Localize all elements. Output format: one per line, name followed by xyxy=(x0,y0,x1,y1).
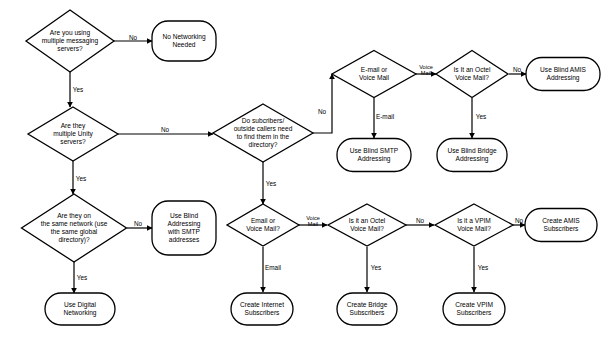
edge-label: No xyxy=(161,126,170,133)
flowchart-canvas: NoYesNoYesNoYesNoYesVoiceMailE-mailNoYes… xyxy=(0,0,614,337)
edge-label: No xyxy=(416,217,425,224)
edge-label: Yes xyxy=(478,264,488,271)
node-t_blind_smtp_addresses[interactable]: Use BlindAddressingwith SMTPaddresses xyxy=(152,201,216,255)
node-q_same_network[interactable]: Are they onthe same network (usethe same… xyxy=(22,194,127,262)
node-q_octel_bottom[interactable]: Is it an OctelVoice Mail? xyxy=(328,204,406,246)
edge-label: Yes xyxy=(371,264,381,271)
node-q_multi_unity[interactable]: Are theymultiple Unityservers? xyxy=(28,107,118,161)
edge-label: No xyxy=(513,66,522,73)
node-label: Create BridgeSubscribers xyxy=(347,301,388,316)
node-q_email_or_vm_top[interactable]: E-mail orVoice Mail xyxy=(332,51,416,98)
edge-label: No xyxy=(515,217,524,224)
node-label: Use DigitalNetworking xyxy=(64,301,97,317)
node-label: Create InternetSubscribers xyxy=(240,301,284,316)
node-t_blind_smtp[interactable]: Use Blind SMTPAddressing xyxy=(337,139,411,172)
nodes-layer: Are you usingmultiple messagingservers?N… xyxy=(22,10,601,325)
edge-label: VoiceMail xyxy=(306,215,320,227)
edge-e7: No xyxy=(313,74,332,133)
node-t_vpim_subscribers[interactable]: Create VPIMSubscribers xyxy=(443,293,505,325)
edge-e3: No xyxy=(118,126,213,134)
node-label: Is It an OctelVoice Mail? xyxy=(453,66,491,81)
edge-e11: No xyxy=(509,66,526,74)
edge-e12: Yes xyxy=(472,98,486,138)
edge-label: Yes xyxy=(266,180,276,187)
edge-label: No xyxy=(318,108,327,115)
edge-e18: Yes xyxy=(474,247,488,292)
node-t_amis_subscribers[interactable]: Create AMISSubscribers xyxy=(525,209,597,242)
edge-e6: Yes xyxy=(74,262,87,293)
flowchart-svg: NoYesNoYesNoYesNoYesVoiceMailE-mailNoYes… xyxy=(0,0,614,337)
node-t_digital_networking[interactable]: Use DigitalNetworking xyxy=(45,293,115,325)
node-label: Email orVoice Mail? xyxy=(246,217,280,232)
node-q_find_directory[interactable]: Do subcribers/outside callers needto fin… xyxy=(213,104,313,162)
edge-label: Yes xyxy=(76,175,86,182)
edge-e15: No xyxy=(406,217,434,225)
node-label: Is it an OctelVoice Mail? xyxy=(349,217,386,232)
node-q_octel_top[interactable]: Is It an OctelVoice Mail? xyxy=(436,51,508,98)
edge-e14: Email xyxy=(263,247,281,292)
edge-label: Email xyxy=(265,264,281,271)
node-t_blind_amis[interactable]: Use Blind AMISAddressing xyxy=(526,58,600,91)
edge-e8: Yes xyxy=(263,162,276,204)
edge-e13: VoiceMail xyxy=(299,215,327,227)
node-t_blind_bridge[interactable]: Use Blind BridgeAddressing xyxy=(437,139,507,172)
edge-label: VoiceMail xyxy=(419,64,433,76)
edge-e17: No xyxy=(513,217,525,225)
edge-e16: Yes xyxy=(367,247,381,292)
edge-label: E-mail xyxy=(376,113,394,120)
node-label: Use BlindAddressingwith SMTPaddresses xyxy=(167,212,201,243)
edge-label: No xyxy=(129,34,138,41)
edge-e9: VoiceMail xyxy=(416,64,436,76)
node-label: Is it a VPIMVoice Mail? xyxy=(457,217,491,232)
edge-e5: No xyxy=(127,220,152,228)
node-label: Create VPIMSubscribers xyxy=(455,301,493,316)
edge-label: Yes xyxy=(476,113,486,120)
node-t_no_networking[interactable]: No NetworkingNeeded xyxy=(152,21,216,61)
node-label: E-mail orVoice Mail xyxy=(359,66,390,81)
node-q_vpim_bottom[interactable]: Is it a VPIMVoice Mail? xyxy=(435,204,513,246)
edge-line xyxy=(313,74,332,133)
node-label: Create AMISSubscribers xyxy=(542,217,580,232)
edge-e4: Yes xyxy=(73,161,86,194)
edge-e2: Yes xyxy=(70,72,83,107)
edge-label: No xyxy=(134,220,143,227)
edge-e10: E-mail xyxy=(374,98,394,138)
node-t_bridge_subscribers[interactable]: Create BridgeSubscribers xyxy=(337,293,397,325)
edge-label: Yes xyxy=(73,86,83,93)
edge-e1: No xyxy=(114,34,152,41)
node-q_multi_messaging[interactable]: Are you usingmultiple messagingservers? xyxy=(26,10,114,72)
node-t_internet_subscribers[interactable]: Create InternetSubscribers xyxy=(231,293,293,325)
node-q_email_or_vm_bottom[interactable]: Email orVoice Mail? xyxy=(227,204,299,246)
edge-label: Yes xyxy=(77,274,87,281)
